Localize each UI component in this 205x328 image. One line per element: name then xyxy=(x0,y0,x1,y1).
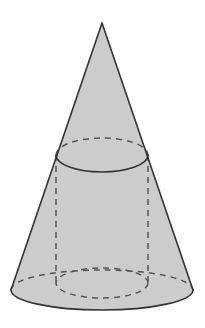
figure-canvas: Cone with inscribed cylinder A shaded ri… xyxy=(0,0,205,328)
cone-cylinder-diagram: Cone with inscribed cylinder A shaded ri… xyxy=(0,0,205,328)
cone-solid xyxy=(11,23,193,310)
cone-lateral-fill xyxy=(11,23,193,310)
